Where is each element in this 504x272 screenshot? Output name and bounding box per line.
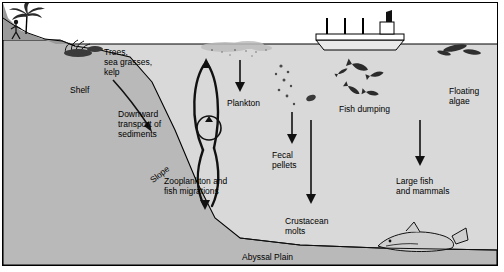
label-shelf: Shelf — [70, 85, 89, 95]
label-crustacean-molts: Crustacean molts — [285, 216, 328, 236]
label-fecal-pellets: Fecal pellets — [272, 150, 297, 170]
label-abyssal-plain: Abyssal Plain — [242, 252, 293, 262]
label-plankton: Plankton — [227, 98, 260, 108]
label-fish-dumping: Fish dumping — [339, 104, 390, 114]
label-downward-transport: Downward transport of sediments — [118, 109, 161, 139]
diagram-artwork — [0, 0, 504, 272]
label-trees: Trees, sea grasses, kelp — [104, 47, 152, 77]
label-floating-algae: Floating algae — [449, 86, 479, 106]
diagram-canvas: Trees, sea grasses, kelp Shelf Downward … — [0, 0, 504, 272]
label-large-fish-and-mammals: Large fish and mammals — [396, 176, 449, 196]
label-zooplankton-fish-migrations: Zooplankton and fish migrations — [164, 176, 227, 196]
